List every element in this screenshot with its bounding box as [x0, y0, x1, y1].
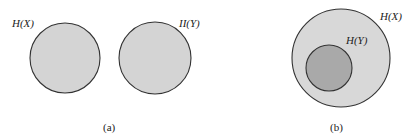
- panel-b: H(X) H(Y) (b): [292, 9, 402, 134]
- caption-b: (b): [330, 121, 343, 134]
- label-hy-b: H(Y): [345, 34, 368, 47]
- label-hx-a: H(X): [11, 17, 34, 30]
- label-hx-b: H(X): [379, 10, 402, 23]
- venn-diagram-figure: H(X) II(Y) (a) H(X) H(Y) (b): [0, 0, 415, 137]
- label-hy-a: II(Y): [178, 17, 200, 30]
- circle-hx-separate: [30, 23, 100, 93]
- circle-hy-separate: [119, 22, 191, 94]
- circle-hy-inner: [306, 45, 352, 91]
- panel-a: H(X) II(Y) (a): [11, 17, 200, 134]
- caption-a: (a): [103, 121, 116, 134]
